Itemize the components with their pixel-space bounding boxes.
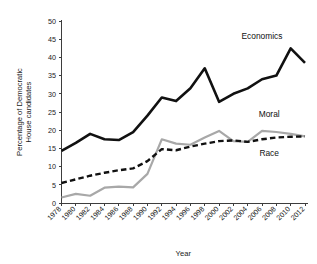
y-tick-label: 10 — [48, 162, 56, 171]
series-label-economics: Economics — [242, 31, 283, 41]
series-label-moral: Moral — [259, 109, 280, 119]
y-tick-label: 45 — [48, 35, 56, 44]
y-tick-label: 50 — [48, 17, 56, 26]
y-tick-label: 5 — [52, 181, 56, 190]
y-tick-label: 35 — [48, 71, 56, 80]
y-axis-title-line1: Percentage of Democratic — [15, 68, 24, 156]
line-chart: 05101520253035404550 1978198019821984198… — [0, 0, 317, 264]
y-tick-label: 40 — [48, 53, 56, 62]
y-tick-label: 25 — [48, 108, 56, 117]
y-tick-label: 15 — [48, 144, 56, 153]
y-tick-label: 20 — [48, 126, 56, 135]
x-axis-title: Year — [176, 249, 192, 258]
y-axis-title-line2: House candidates — [24, 81, 33, 142]
y-tick-label: 30 — [48, 90, 56, 99]
chart-container: 05101520253035404550 1978198019821984198… — [0, 0, 317, 264]
series-label-race: Race — [259, 148, 279, 158]
